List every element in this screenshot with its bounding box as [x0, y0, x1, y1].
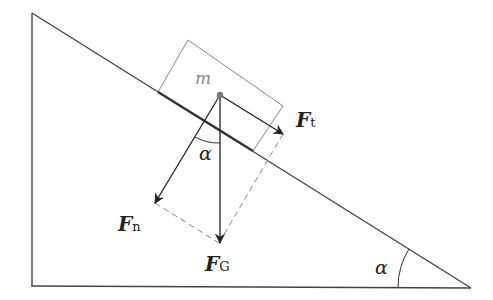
force-normal-label: Fn	[118, 212, 141, 236]
force-gravity-label: FG	[205, 252, 230, 276]
force-tangential-main: F	[296, 108, 310, 132]
force-tangential-sub: t	[310, 115, 315, 130]
angle-label-mass: α	[199, 142, 212, 164]
angle-arc-base	[398, 249, 409, 288]
inclined-plane-diagram	[0, 0, 493, 300]
mass-label: m	[195, 68, 211, 88]
force-parallelogram	[155, 134, 283, 243]
force-tangential-label: Ft	[296, 108, 315, 132]
force-normal-main: F	[118, 212, 132, 236]
force-tangential-arrow	[220, 95, 283, 134]
force-gravity-main: F	[205, 252, 219, 276]
center-of-mass-dot	[217, 92, 223, 98]
force-vectors	[155, 95, 283, 243]
force-normal-sub: n	[132, 219, 140, 234]
force-gravity-sub: G	[219, 259, 229, 274]
angle-label-base: α	[375, 256, 388, 278]
